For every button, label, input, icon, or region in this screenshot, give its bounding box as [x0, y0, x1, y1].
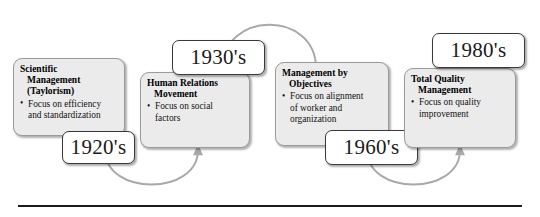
stage-title-line: Scientific: [20, 64, 57, 74]
stage-title-human-relations-movement: Human Relations Movement: [147, 78, 243, 100]
stage-title-line: Management: [411, 85, 509, 96]
bottom-divider-rule: [18, 205, 522, 207]
stage-title-line: Management: [20, 75, 118, 86]
bullet-dot-icon: •: [147, 101, 150, 112]
stage-title-management-by-objectives: Management by Objectives: [282, 68, 382, 90]
stage-card-human-relations-movement[interactable]: Human Relations Movement • Focus on soci…: [140, 72, 250, 148]
stage-bullet-line: improvement: [419, 109, 509, 120]
year-badge-1930s[interactable]: 1930's: [172, 40, 265, 75]
stage-title-line: Total Quality: [411, 74, 465, 84]
bullet-dot-icon: •: [411, 97, 414, 108]
stage-title-line: Human Relations: [147, 78, 218, 88]
stage-title-line: Management by: [282, 68, 348, 78]
stage-bullet-total-quality-management: • Focus on quality improvement: [411, 97, 509, 119]
stage-bullet-line: Focus on alignment: [290, 91, 363, 101]
stage-bullet-line: factors: [155, 113, 243, 124]
stage-bullet-management-by-objectives: • Focus on alignment of worker and organ…: [282, 91, 382, 125]
stage-bullet-line: and standardization: [28, 110, 118, 121]
stage-card-total-quality-management[interactable]: Total Quality Management • Focus on qual…: [404, 68, 516, 148]
stage-title-scientific-management: Scientific Management (Taylorism): [20, 64, 118, 98]
year-label: 1960's: [344, 137, 400, 158]
stage-title-total-quality-management: Total Quality Management: [411, 74, 509, 96]
bullet-dot-icon: •: [282, 91, 285, 102]
year-badge-1920s[interactable]: 1920's: [62, 131, 135, 164]
bullet-dot-icon: •: [20, 98, 23, 109]
stage-bullet-scientific-management: • Focus on efficiency and standardizatio…: [20, 99, 118, 121]
year-label: 1980's: [451, 40, 507, 61]
stage-title-line: (Taylorism): [20, 86, 118, 97]
stage-title-line: Movement: [147, 89, 243, 100]
stage-bullet-line: Focus on efficiency: [28, 99, 101, 109]
timeline-diagram: Scientific Management (Taylorism) • Focu…: [0, 0, 540, 217]
year-label: 1920's: [71, 137, 127, 158]
stage-bullet-line: organization: [290, 114, 382, 125]
stage-bullet-line: Focus on quality: [419, 97, 481, 107]
year-label: 1930's: [191, 47, 247, 68]
stage-title-line: Objectives: [282, 79, 382, 90]
stage-bullet-human-relations-movement: • Focus on social factors: [147, 101, 243, 123]
stage-bullet-line: of worker and: [290, 103, 382, 114]
stage-card-scientific-management[interactable]: Scientific Management (Taylorism) • Focu…: [13, 58, 125, 136]
year-badge-1980s[interactable]: 1980's: [432, 33, 525, 68]
stage-bullet-line: Focus on social: [155, 101, 213, 111]
